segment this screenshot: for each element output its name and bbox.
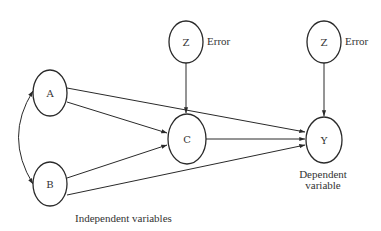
error-label-1: Error — [207, 35, 231, 47]
node-z-error-c: Z — [169, 21, 203, 63]
error-label-2: Error — [345, 35, 369, 47]
node-b: B — [33, 162, 67, 206]
node-y-label: Y — [320, 135, 328, 146]
node-c: C — [168, 114, 206, 164]
independent-variables-label: Independent variables — [75, 212, 172, 224]
edge-a-to-c — [67, 102, 167, 133]
node-z1-label: Z — [183, 37, 190, 48]
node-b-label: B — [46, 179, 53, 190]
node-y: Y — [306, 117, 342, 163]
node-a-label: A — [45, 88, 54, 99]
dependent-variable-label-line2: variable — [305, 179, 341, 191]
node-z-error-y: Z — [307, 21, 341, 63]
edge-b-to-c — [67, 145, 167, 178]
node-z2-label: Z — [321, 37, 328, 48]
edge-a-b-correlation — [19, 91, 34, 184]
path-diagram: A B C Y Z Z Error Error Dependent variab… — [0, 0, 381, 231]
node-a: A — [33, 70, 67, 116]
node-c-label: C — [183, 134, 191, 145]
